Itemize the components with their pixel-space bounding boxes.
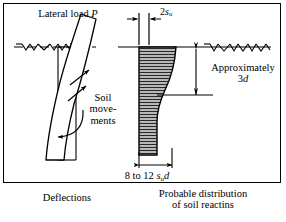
su-gap-dimension [127,13,161,45]
soil-reaction-distribution [139,47,176,155]
label-soil-movements: Soilmove-ments [86,92,120,126]
label-approximately-3d: Approximately3d [203,62,283,85]
caption-probable-distribution: Probable distributionof soil reactins [128,188,278,211]
label-2su: 2su [160,7,172,18]
caption-deflections: Deflections [14,192,120,203]
pile-deflected [46,14,96,160]
label-lateral-load: Lateral load P [36,8,100,19]
figure-laterally-loaded-pile: Lateral load P 2su Approximately3d Soilm… [0,0,286,222]
label-width-range: 8 to 12 sud [103,170,191,183]
pressure-block [139,47,176,155]
